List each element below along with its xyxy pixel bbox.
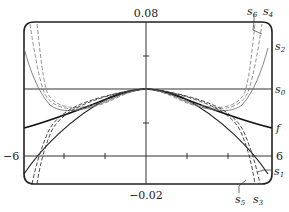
label-s3: s3 [253, 193, 264, 207]
label-s2: s2 [275, 40, 286, 54]
leader-s5 [239, 180, 246, 193]
label-s0: s0 [275, 83, 286, 97]
top-axis-label: 0.08 [134, 7, 159, 20]
plot-frame [24, 22, 272, 184]
left-axis-label: −6 [3, 150, 19, 163]
leader-s1 [257, 170, 272, 172]
bottom-axis-label: −0.02 [129, 189, 163, 202]
label-s5: s5 [235, 193, 246, 207]
right-axis-label: 6 [276, 150, 283, 163]
label-f: f [275, 122, 282, 135]
label-s4: s4 [263, 5, 273, 19]
label-s6: s6 [247, 5, 258, 19]
approximation-diagram: 0.08 −0.02 −6 6 s6 s4 s2 s0 f s1 s5 s3 [0, 0, 289, 212]
label-s1: s1 [274, 165, 284, 179]
